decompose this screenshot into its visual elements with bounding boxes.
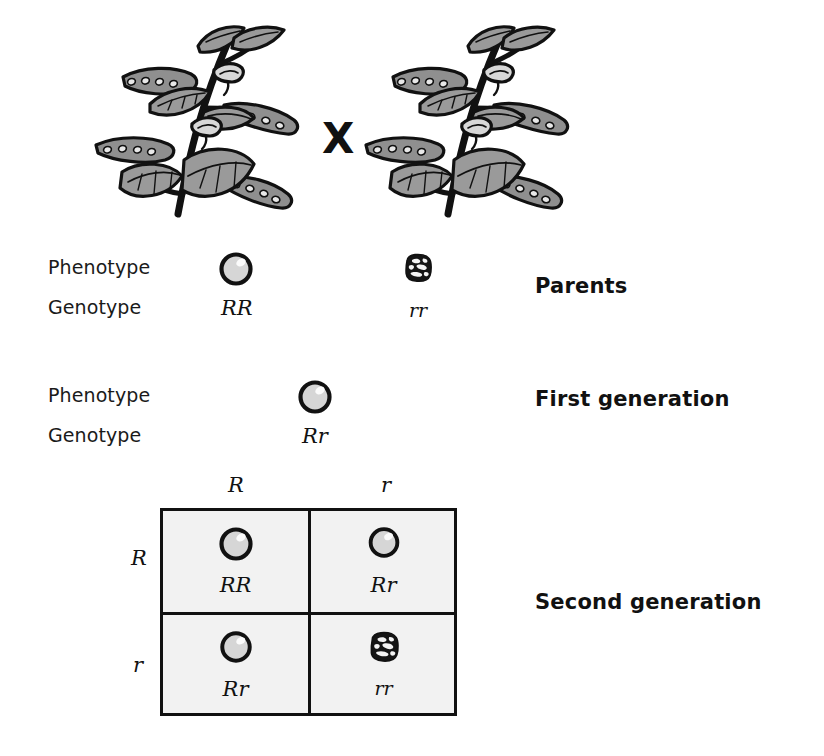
cell-phenotype (217, 525, 255, 563)
punnett-cell-heterozygous-2[interactable]: Rr (163, 615, 308, 716)
punnett-square: RR Rr Rr (160, 508, 457, 716)
punnett-cell-recessive[interactable]: rr (311, 615, 456, 716)
stage-label-first-generation: First generation (535, 387, 730, 411)
punnett-horizontal-divider (163, 612, 454, 615)
round-seed-icon (217, 250, 255, 288)
cell-phenotype (367, 630, 401, 664)
genetics-diagram: X (0, 0, 824, 756)
pea-flower (214, 64, 244, 95)
f1-genotype-label: Genotype (48, 424, 141, 446)
round-seed-icon (296, 378, 334, 416)
parent-left-phenotype (217, 250, 255, 288)
cell-genotype: Rr (223, 677, 249, 701)
pea-flower (484, 64, 514, 95)
parent-plant-right (358, 22, 573, 227)
cell-phenotype (218, 629, 254, 665)
round-seed-icon (218, 629, 254, 665)
wrinkled-seed-icon (367, 630, 401, 664)
cell-phenotype (366, 525, 401, 560)
parent-right-genotype: rr (409, 299, 427, 321)
parents-phenotype-label: Phenotype (48, 256, 150, 278)
punnett-row-header-2: r (133, 653, 143, 677)
pea-plant-illustration (358, 22, 573, 227)
stage-label-parents: Parents (535, 274, 628, 298)
punnett-column-header-1: R (228, 473, 244, 497)
cross-symbol: X (322, 118, 354, 160)
parent-left-genotype: RR (221, 296, 253, 320)
f1-genotype: Rr (302, 424, 328, 448)
stage-label-second-generation: Second generation (535, 590, 762, 614)
punnett-row-header-1: R (131, 546, 147, 570)
pea-plant-illustration (88, 22, 303, 227)
wrinkled-seed-icon (402, 252, 434, 284)
cell-genotype: RR (220, 573, 252, 597)
punnett-cell-rr-dominant[interactable]: RR (163, 511, 308, 612)
parent-plant-left (88, 22, 303, 227)
parent-right-phenotype (402, 252, 434, 284)
punnett-cell-heterozygous-1[interactable]: Rr (311, 511, 456, 612)
f1-phenotype (296, 378, 334, 416)
cell-genotype: rr (374, 677, 392, 699)
round-seed-icon (366, 525, 401, 560)
punnett-column-header-2: r (381, 473, 391, 497)
parents-genotype-label: Genotype (48, 296, 141, 318)
f1-phenotype-label: Phenotype (48, 384, 150, 406)
cell-genotype: Rr (371, 573, 397, 597)
round-seed-icon (217, 525, 255, 563)
